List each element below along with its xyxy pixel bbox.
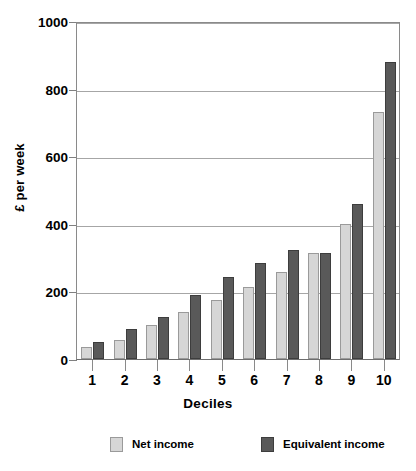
bar-group (308, 23, 332, 359)
x-tick-mark (287, 360, 288, 371)
bar-equivalent-income (352, 204, 363, 359)
chart-legend: Net incomeEquivalent income (76, 437, 400, 459)
legend-label: Net income (132, 437, 194, 452)
bar-equivalent-income (255, 263, 266, 359)
bar-equivalent-income (158, 317, 169, 359)
bar-group (114, 23, 138, 359)
x-tick-mark (319, 360, 320, 371)
bar-equivalent-income (126, 329, 137, 359)
y-tick-label: 800 (12, 82, 68, 97)
y-tick-label: 400 (12, 217, 68, 232)
bar-net-income (340, 224, 351, 359)
bar-net-income (81, 347, 92, 359)
bar-chart-figure: £ per week 02004006008001000 12345678910… (0, 0, 416, 471)
bar-equivalent-income (93, 342, 104, 359)
y-tick-label: 0 (12, 353, 68, 368)
bar-equivalent-income (223, 277, 234, 359)
bar-group (81, 23, 105, 359)
legend-item: Equivalent income (261, 437, 385, 452)
bar-equivalent-income (385, 62, 396, 359)
bar-net-income (146, 325, 157, 359)
bar-group (178, 23, 202, 359)
x-tick-mark (222, 360, 223, 371)
bar-equivalent-income (288, 250, 299, 359)
bar-group (340, 23, 364, 359)
bar-net-income (243, 287, 254, 359)
legend-item: Net income (110, 437, 194, 452)
legend-label: Equivalent income (283, 437, 385, 452)
x-tick-label: 10 (364, 372, 404, 388)
bar-net-income (178, 312, 189, 359)
bar-net-income (276, 272, 287, 359)
y-tick-label: 1000 (12, 15, 68, 30)
legend-swatch-icon (261, 437, 274, 452)
x-axis-title: Deciles (0, 396, 416, 411)
x-tick-mark (254, 360, 255, 371)
bar-group (276, 23, 300, 359)
x-tick-mark (189, 360, 190, 371)
bar-equivalent-income (320, 253, 331, 359)
bar-group (211, 23, 235, 359)
x-tick-mark (351, 360, 352, 371)
bar-net-income (373, 112, 384, 359)
x-tick-mark (384, 360, 385, 371)
x-tick-mark (157, 360, 158, 371)
x-tick-mark (125, 360, 126, 371)
bar-net-income (114, 340, 125, 359)
bar-net-income (308, 253, 319, 359)
y-tick-mark (69, 360, 77, 361)
bar-equivalent-income (190, 295, 201, 359)
y-tick-label: 600 (12, 150, 68, 165)
bar-group (243, 23, 267, 359)
y-tick-label: 200 (12, 285, 68, 300)
legend-swatch-icon (110, 437, 123, 452)
bar-group (373, 23, 397, 359)
bar-net-income (211, 300, 222, 359)
plot-area (76, 22, 400, 360)
x-tick-mark (92, 360, 93, 371)
bar-group (146, 23, 170, 359)
